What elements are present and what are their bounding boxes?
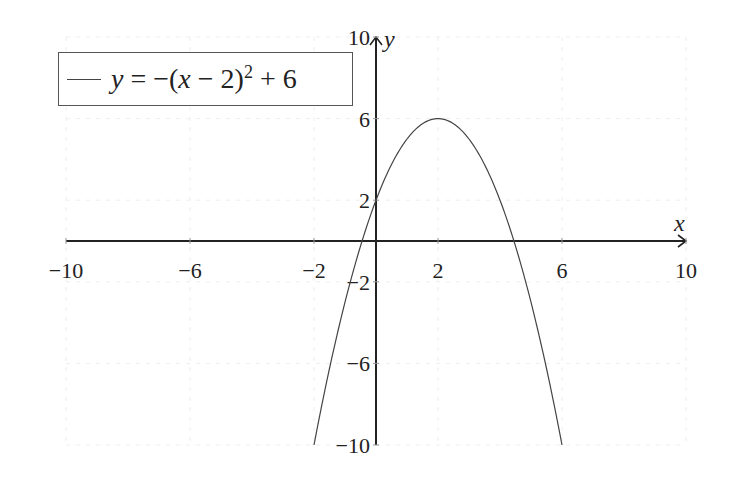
svg-text:−6: −6 (178, 258, 201, 283)
legend-label: y = −(x − 2)2 + 6 (111, 62, 297, 95)
svg-text:y: y (382, 26, 395, 52)
svg-text:−10: −10 (49, 258, 83, 283)
svg-text:x: x (673, 210, 685, 236)
svg-text:2: 2 (433, 258, 444, 283)
legend: y = −(x − 2)2 + 6 (58, 52, 353, 106)
svg-text:10: 10 (675, 258, 697, 283)
svg-text:6: 6 (557, 258, 568, 283)
svg-text:2: 2 (359, 188, 370, 213)
svg-text:10: 10 (348, 25, 370, 50)
svg-text:−6: −6 (347, 351, 370, 376)
svg-text:−10: −10 (336, 433, 370, 458)
svg-text:−2: −2 (302, 258, 325, 283)
svg-text:6: 6 (359, 107, 370, 132)
legend-line-swatch (67, 79, 101, 80)
